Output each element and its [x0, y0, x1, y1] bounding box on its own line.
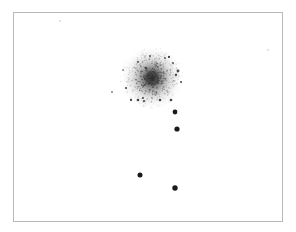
- star-1: [173, 110, 178, 115]
- astronomical-plate: [0, 0, 296, 232]
- star-4: [172, 185, 177, 190]
- star-cluster: [111, 46, 184, 110]
- cluster-core: [145, 71, 159, 85]
- star-2: [174, 126, 179, 131]
- star-3: [138, 173, 143, 178]
- foreground-stars: [138, 110, 180, 191]
